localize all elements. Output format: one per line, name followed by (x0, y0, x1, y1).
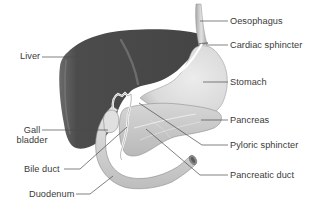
label-duodenum: Duodenum (29, 189, 74, 199)
label-gall-bladder-line2: bladder (13, 135, 51, 145)
gall-bladder-shape (103, 110, 118, 133)
digestive-system-diagram: Liver Gall bladder Bile duct Duodenum Oe… (0, 0, 323, 209)
label-liver: Liver (20, 51, 40, 61)
cardiac-sphincter-ring (198, 43, 208, 44)
label-pancreas: Pancreas (230, 115, 269, 125)
label-pancreatic-duct: Pancreatic duct (230, 170, 294, 180)
leader-duodenum (76, 176, 113, 194)
label-pyloric-sphincter: Pyloric sphincter (230, 140, 298, 150)
label-oesophagus: Oesophagus (230, 16, 283, 26)
label-bile-duct: Bile duct (24, 164, 60, 174)
label-cardiac-sphincter: Cardiac sphincter (230, 40, 302, 50)
label-gall-bladder-line1: Gall (16, 125, 48, 135)
label-stomach: Stomach (230, 77, 267, 87)
